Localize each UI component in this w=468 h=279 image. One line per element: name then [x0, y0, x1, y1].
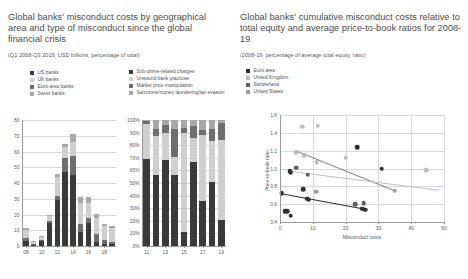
legend-country-label: United States — [254, 89, 283, 95]
bar-segment — [109, 226, 114, 228]
bar-segment — [70, 156, 75, 175]
legend-swatch-icon — [246, 76, 250, 80]
legend-swatch-icon — [246, 83, 250, 87]
legend-geo-item[interactable]: Swiss banks — [30, 91, 73, 97]
y-axis-tick-label: 80 — [8, 118, 20, 123]
x-axis-tick-label: 18 — [102, 250, 107, 255]
bar-segment — [109, 228, 114, 242]
bar-stack — [62, 120, 67, 246]
y-axis — [280, 115, 281, 222]
scatter-point — [361, 201, 366, 206]
bar-segment — [23, 238, 28, 241]
x-axis-tick-label: 11 — [144, 250, 149, 255]
x-axis — [22, 246, 116, 247]
bar-segment — [55, 177, 60, 196]
left-panel: Global banks' misconduct costs by geogra… — [0, 0, 234, 279]
scatter-point — [355, 145, 360, 150]
x-axis-tickmark — [165, 246, 166, 248]
legend-type-label: Sanctions/money laundering/tax evasion — [137, 90, 225, 96]
right-panel-title: Global banks' cumulative misconduct cost… — [240, 12, 464, 46]
plot-area — [280, 115, 444, 222]
legend-country-item[interactable]: United Kingdom — [246, 75, 288, 81]
legend-type-item[interactable]: Unsound bank practices — [129, 76, 229, 82]
legend-geo-item[interactable]: Euro area banks — [30, 84, 73, 90]
bar-segment — [190, 138, 197, 162]
bar-segment — [181, 128, 188, 133]
gridline — [280, 169, 444, 170]
y-axis-tick-label: 60 — [8, 149, 20, 154]
scatter-point — [379, 166, 384, 171]
scatter-point — [314, 189, 319, 194]
legend-type-item[interactable]: Sub-prime-related charges — [129, 69, 229, 75]
bar-segment — [39, 237, 44, 240]
bar-segment — [190, 162, 197, 246]
y-axis-tick-label: 50 — [8, 165, 20, 170]
gridline — [280, 115, 444, 116]
bar-segment — [62, 158, 67, 172]
x-axis-tick-label: 13 — [163, 250, 168, 255]
bar-segment — [78, 224, 83, 232]
legend-country-label: United Kingdom — [254, 75, 289, 81]
bar-segment — [209, 141, 216, 181]
legend-type-label: Market price manipulation — [137, 83, 193, 89]
bar-stack — [31, 120, 36, 246]
bar-segment — [181, 232, 188, 246]
legend-type-item[interactable]: Sanctions/money laundering/tax evasion — [129, 90, 229, 96]
legend-type-label: Unsound bank practices — [137, 76, 189, 82]
legend-country-item[interactable]: Switzerland — [246, 82, 288, 88]
right-panel: Global banks' cumulative misconduct cost… — [234, 0, 468, 279]
y-axis-tick-label: 1.6 — [262, 113, 277, 118]
bar-segment — [143, 121, 150, 124]
bar-segment — [86, 203, 91, 217]
legend-country-item[interactable]: United States — [246, 89, 288, 95]
y-axis-tick-label: 0 — [8, 244, 20, 249]
right-panel-subtitle: (2008-19, percentage of average total eq… — [240, 52, 465, 59]
legend-geo-item[interactable]: UK banks — [30, 77, 73, 83]
bar-segment — [86, 223, 91, 246]
gridline-vertical — [411, 115, 412, 222]
y-axis-tick-label: 40 — [8, 181, 20, 186]
legend-type-item[interactable]: Market price manipulation — [129, 83, 229, 89]
bar-segment — [171, 157, 178, 176]
bar-segment — [190, 120, 197, 126]
bar-segment — [199, 130, 206, 135]
chart-misconduct-costs-by-area: 01020304050607080081012141618 — [8, 118, 118, 256]
chart-misconduct-costs-by-type: 0%10%20%30%40%50%60%70%80%90%100%1113151… — [124, 118, 228, 256]
left-panel-subtitle: (Q1 2008-Q3 2019, USD billions, percenta… — [8, 52, 223, 59]
legend-geo-item[interactable]: US banks — [30, 70, 73, 76]
scatter-point — [307, 197, 312, 202]
bar-segment — [171, 129, 178, 157]
bar-segment — [109, 242, 114, 244]
legend-country-item[interactable]: Euro area — [246, 68, 288, 74]
bar-stack — [47, 120, 52, 246]
x-axis-tickmark — [221, 246, 222, 248]
x-axis-label: Misconduct costs — [343, 234, 381, 240]
y-axis-tick-label: 90% — [124, 130, 140, 135]
legend-country-label: Euro area — [254, 68, 275, 74]
bar-segment — [23, 230, 28, 238]
scatter-point — [289, 170, 294, 175]
gridline — [280, 133, 444, 134]
scatter-point — [302, 153, 307, 158]
y-axis-tick-label: 10% — [124, 231, 140, 236]
y-axis-tick-label: 1.4 — [262, 130, 277, 135]
scatter-point — [363, 207, 368, 212]
scatter-point — [306, 172, 311, 177]
bar-segment — [47, 223, 52, 246]
bar-segment — [199, 120, 206, 130]
bar-segment — [94, 214, 99, 219]
bar-segment — [218, 123, 225, 141]
bar-stack — [190, 120, 197, 246]
bar-stack — [55, 120, 60, 246]
bar-stack — [70, 120, 75, 246]
x-axis-tick-label: 12 — [55, 250, 60, 255]
scatter-point — [315, 123, 320, 128]
bar-segment — [23, 228, 28, 230]
bar-segment — [86, 218, 91, 224]
legend-geographical-area: US banksUK banksEuro area banksSwiss ban… — [30, 70, 73, 98]
bar-segment — [218, 120, 225, 123]
x-axis-tickmark — [104, 246, 105, 248]
legend-type-label: Sub-prime-related charges — [137, 69, 195, 75]
bar-segment — [39, 240, 44, 242]
legend-swatch-icon — [30, 71, 34, 75]
